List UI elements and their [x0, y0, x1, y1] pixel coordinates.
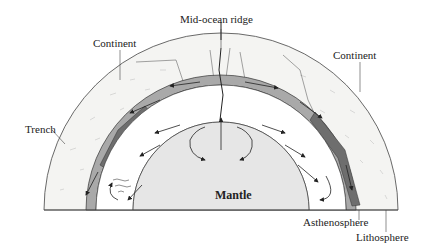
label-mantle: Mantle	[215, 189, 252, 201]
label-mid-ocean-ridge: Mid-ocean ridge	[180, 14, 253, 25]
label-trench: Trench	[25, 124, 56, 135]
label-asthenosphere: Asthenosphere	[303, 217, 368, 228]
tectonics-diagram: Mid-ocean ridge Continent Continent Tren…	[0, 0, 442, 245]
label-continent-right: Continent	[333, 50, 376, 61]
label-lithosphere: Lithosphere	[356, 232, 409, 243]
label-continent-left: Continent	[93, 38, 136, 49]
